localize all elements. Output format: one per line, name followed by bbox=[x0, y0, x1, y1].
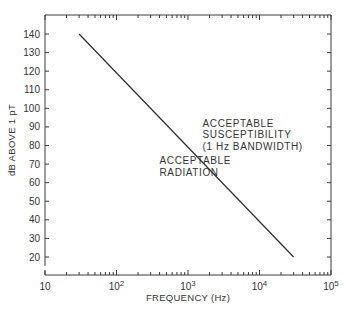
y-tick-label: 110 bbox=[24, 84, 40, 95]
x-tick-label: 103 bbox=[180, 279, 196, 292]
y-tick-label: 70 bbox=[29, 159, 41, 170]
y-tick-label: 130 bbox=[23, 47, 40, 58]
x-tick-label: 10 bbox=[39, 281, 51, 292]
y-tick-label: 80 bbox=[29, 140, 41, 151]
x-tick-label: 105 bbox=[323, 279, 339, 292]
susceptibility-region-label: (1 Hz BANDWIDTH) bbox=[203, 141, 303, 152]
chart: 2030405060708090100110120130140 10102103… bbox=[0, 0, 345, 314]
y-axis-title: dB ABOVE 1 pT bbox=[6, 104, 17, 176]
radiation-region-label: ACCEPTABLE bbox=[160, 155, 231, 166]
x-axis-ticks: 10102103104105 bbox=[39, 15, 339, 292]
x-axis-title: FREQUENCY (Hz) bbox=[146, 292, 230, 303]
x-tick-label: 102 bbox=[109, 279, 125, 292]
y-tick-label: 120 bbox=[23, 66, 40, 77]
y-tick-label: 40 bbox=[29, 214, 41, 225]
y-tick-label: 140 bbox=[23, 29, 40, 40]
radiation-region-label: RADIATION bbox=[160, 167, 219, 178]
x-tick-label: 104 bbox=[252, 279, 268, 292]
y-tick-label: 20 bbox=[29, 252, 41, 263]
y-tick-label: 90 bbox=[29, 121, 41, 132]
y-tick-label: 100 bbox=[23, 103, 40, 114]
y-tick-label: 60 bbox=[29, 177, 41, 188]
y-tick-label: 50 bbox=[29, 196, 41, 207]
annotations: ACCEPTABLERADIATIONACCEPTABLESUSCEPTIBIL… bbox=[160, 118, 303, 178]
y-tick-label: 30 bbox=[29, 233, 41, 244]
susceptibility-region-label: ACCEPTABLE bbox=[203, 118, 274, 129]
susceptibility-region-label: SUSCEPTIBILITY bbox=[203, 129, 292, 140]
